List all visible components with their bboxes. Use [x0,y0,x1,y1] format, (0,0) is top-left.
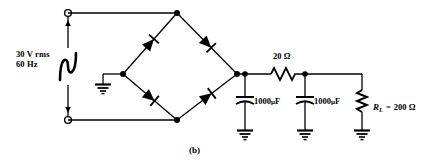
capacitor-2-label: 1000μF [314,97,340,106]
ground-bridge-left [95,74,123,94]
terminal-arrow-bottom [65,107,71,113]
output-rail [237,68,362,80]
circuit-schematic-svg [0,0,433,166]
node-bridge-bottom [174,117,180,123]
source-voltage-label: 30 V rms [16,50,50,59]
diode-lower-left [141,88,159,106]
resistor-20-ohm-label: 20 Ω [273,52,290,61]
load-resistor-subscript: L [379,106,383,113]
capacitor-1-branch [236,74,254,140]
capacitor-2-branch [296,74,314,140]
capacitor-2-value: 1000 [314,96,331,106]
bridge-rectifier [120,10,240,123]
bridge-input-wires [68,13,177,120]
resistor-20-ohm-symbol [271,68,299,80]
load-resistor-label: RL=200 Ω [373,96,416,113]
figure-caption: (b) [189,146,200,156]
load-resistor-branch [354,74,370,140]
capacitor-2-unit-f: F [335,96,340,106]
circuit-diagram-figure: 30 V rms 60 Hz 20 Ω 1000μF 1000μF RL=200… [0,0,433,166]
node-bridge-top [174,10,180,16]
capacitor-1-unit-f: F [275,96,280,106]
load-resistor-value: 200 Ω [394,102,416,112]
terminal-arrow-top [65,20,71,26]
sine-wave-icon [60,53,76,80]
diode-lower-right-triangle [199,89,215,105]
load-resistor-equals: = [386,102,391,112]
capacitor-1-value: 1000 [254,96,271,106]
ac-source-branch [60,10,76,124]
capacitor-1-label: 1000μF [254,97,280,106]
diode-lower-right [198,88,216,106]
load-resistor-symbol [357,90,367,112]
source-frequency-label: 60 Hz [16,60,38,69]
